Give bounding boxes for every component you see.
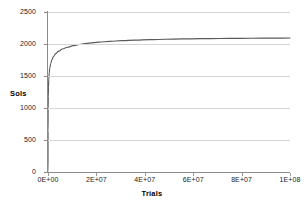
plot-area (48, 12, 290, 172)
y-tick-label: 0 (2, 168, 36, 176)
series-layer (48, 12, 290, 172)
y-tick-label: 1000 (2, 104, 36, 112)
y-tick-mark (44, 140, 48, 141)
gridline-y (48, 76, 290, 77)
y-tick-mark (44, 12, 48, 13)
y-tick-label: 500 (2, 136, 36, 144)
gridline-y (48, 108, 290, 109)
line-series-sols (48, 38, 290, 172)
x-axis-title: Trials (0, 189, 304, 198)
x-tick-label: 1E+08 (268, 176, 304, 184)
y-tick-label: 1500 (2, 72, 36, 80)
x-tick-label: 4E+07 (123, 176, 167, 184)
y-tick-label: 2000 (2, 40, 36, 48)
gridline-y (48, 44, 290, 45)
x-tick-label: 6E+07 (171, 176, 215, 184)
gridline-y (48, 140, 290, 141)
y-axis-line (47, 11, 48, 173)
y-tick-mark (44, 76, 48, 77)
y-tick-mark (44, 44, 48, 45)
x-axis-line (47, 172, 290, 173)
x-tick-label: 2E+07 (74, 176, 118, 184)
y-tick-mark (44, 108, 48, 109)
chart-container: Sols Trials 050010001500200025000E+002E+… (0, 0, 304, 207)
y-tick-label: 2500 (2, 8, 36, 16)
x-tick-label: 8E+07 (220, 176, 264, 184)
x-tick-label: 0E+00 (26, 176, 70, 184)
y-axis-title: Sols (10, 89, 27, 98)
gridline-y (48, 12, 290, 13)
